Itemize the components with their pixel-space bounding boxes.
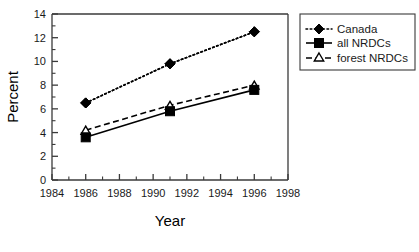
chart-legend: Canada all NRDCs forest NRDCs [300,14,415,70]
x-tick-label: 1990 [141,187,165,199]
data-point-canada-1996-top [249,27,259,37]
chart-figure: 0 2 4 6 8 10 12 14 [0,0,419,252]
legend-label-forest-nrdcs: forest NRDCs [337,52,408,64]
y-tick-label: 0 [40,174,46,186]
x-tick-label: 1992 [175,187,199,199]
x-tick-label: 1996 [242,187,266,199]
legend-label-all-nrdcs: all NRDCs [337,37,391,49]
line-chart: 0 2 4 6 8 10 12 14 [0,0,419,252]
data-point-all-1986 [81,133,90,142]
data-point-all-1991 [166,107,175,116]
x-tick-label: 1998 [276,187,300,199]
y-tick-label: 4 [40,127,46,139]
x-tick-label: 1984 [40,187,64,199]
x-tick-label: 1988 [107,187,131,199]
data-point-canada-1986-top [81,98,91,108]
x-tick-label: 1986 [73,187,97,199]
plot-frame [52,14,288,180]
y-tick-label: 10 [34,55,46,67]
y-axis-tick-labels: 0 2 4 6 8 10 12 14 [34,8,46,186]
data-point-all-1996 [250,85,259,94]
y-axis-title: Percent [4,70,21,123]
x-tick-label: 1994 [208,187,232,199]
y-tick-label: 8 [40,79,46,91]
y-tick-label: 2 [40,150,46,162]
legend-marker-filled-square-icon [315,39,324,48]
legend-label-canada: Canada [337,23,378,35]
y-tick-label: 6 [40,103,46,115]
legend-item-all-nrdcs[interactable]: all NRDCs [306,37,391,49]
data-point-canada-1991-top [165,59,175,69]
x-axis-title: Year [155,212,185,229]
series-all-nrdcs [81,85,259,141]
y-tick-label: 14 [34,8,46,20]
x-axis-tick-labels: 1984 1986 1988 1990 1992 1994 1996 1998 [40,187,300,199]
y-tick-label: 12 [34,32,46,44]
